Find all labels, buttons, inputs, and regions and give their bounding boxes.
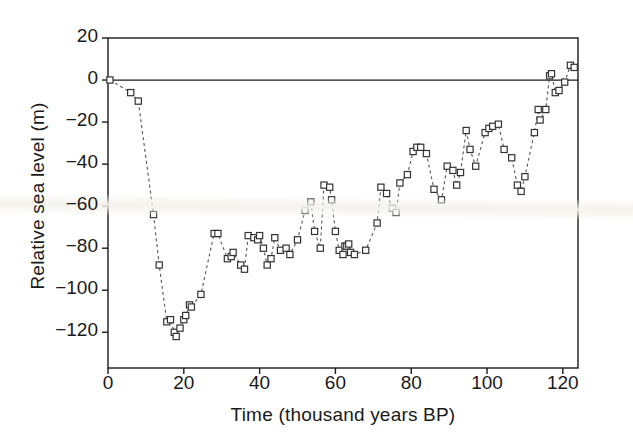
data-point-marker: [501, 146, 507, 152]
plot-frame-rect: [108, 38, 578, 368]
data-point-marker: [418, 144, 424, 150]
data-point-marker: [173, 333, 179, 339]
data-point-marker: [438, 197, 444, 203]
data-point-marker: [312, 228, 318, 234]
data-point-marker: [450, 167, 456, 173]
data-point-marker: [423, 151, 429, 157]
data-point-marker: [241, 266, 247, 272]
data-point-marker: [177, 325, 183, 331]
data-point-marker: [264, 262, 270, 268]
data-point-marker: [107, 77, 113, 83]
data-point-marker: [128, 90, 134, 96]
x-tick-label: 80: [401, 372, 422, 394]
data-point-marker: [198, 291, 204, 297]
data-point-marker: [363, 247, 369, 253]
data-point-marker: [215, 230, 221, 236]
data-point-marker: [346, 241, 352, 247]
data-point-marker: [473, 163, 479, 169]
data-point-marker: [188, 304, 194, 310]
data-point-marker: [167, 317, 173, 323]
sea-level-chart-figure: 200−20−40−60−80−100−120 020406080100120 …: [0, 0, 633, 438]
data-point-marker: [384, 190, 390, 196]
data-point-marker: [340, 251, 346, 257]
x-tick-label: 100: [471, 372, 503, 394]
data-point-marker: [509, 155, 515, 161]
data-point-marker: [156, 262, 162, 268]
x-tick-label: 0: [103, 372, 114, 394]
data-point-marker: [514, 182, 520, 188]
data-point-marker: [531, 130, 537, 136]
data-point-marker: [393, 209, 399, 215]
data-point-marker: [467, 146, 473, 152]
data-point-marker: [230, 249, 236, 255]
data-point-marker: [495, 121, 501, 127]
data-point-marker: [332, 228, 338, 234]
y-tick-label: 0: [87, 67, 98, 89]
y-tick-label: −20: [66, 109, 98, 131]
data-point-marker: [287, 251, 293, 257]
data-point-marker: [374, 220, 380, 226]
x-axis-title: Time (thousand years BP): [108, 404, 578, 426]
plot-frame: [108, 38, 578, 368]
data-point-marker: [294, 237, 300, 243]
series-polyline: [110, 65, 574, 336]
y-tick-label: −100: [55, 277, 98, 299]
y-tick-label: −80: [66, 235, 98, 257]
data-point-marker: [268, 256, 274, 262]
data-point-marker: [571, 64, 577, 70]
data-point-marker: [272, 235, 278, 241]
data-point-marker: [135, 98, 141, 104]
data-point-marker: [537, 117, 543, 123]
series-markers: [107, 62, 578, 339]
data-point-marker: [351, 251, 357, 257]
data-point-marker: [150, 212, 156, 218]
data-point-marker: [562, 79, 568, 85]
data-point-marker: [308, 199, 314, 205]
x-tick-label: 60: [325, 372, 346, 394]
data-point-marker: [548, 71, 554, 77]
x-tick-label: 40: [249, 372, 270, 394]
data-point-marker: [302, 207, 308, 213]
data-point-marker: [257, 233, 263, 239]
chart-plot-area: [0, 0, 633, 438]
data-point-marker: [329, 197, 335, 203]
x-tick-label: 120: [547, 372, 579, 394]
data-point-marker: [518, 188, 524, 194]
y-tick-label: −120: [55, 319, 98, 341]
x-tick-label: 20: [173, 372, 194, 394]
data-point-marker: [397, 180, 403, 186]
data-point-marker: [317, 245, 323, 251]
data-point-marker: [260, 245, 266, 251]
data-point-marker: [522, 174, 528, 180]
data-point-marker: [543, 106, 549, 112]
data-point-marker: [283, 245, 289, 251]
data-point-marker: [457, 169, 463, 175]
data-point-marker: [535, 106, 541, 112]
data-point-marker: [454, 182, 460, 188]
data-point-marker: [463, 127, 469, 133]
data-point-marker: [556, 87, 562, 93]
data-point-marker: [404, 172, 410, 178]
y-tick-label: −40: [66, 151, 98, 173]
data-point-marker: [431, 186, 437, 192]
data-point-marker: [183, 312, 189, 318]
series-dashed-line: [110, 65, 574, 336]
data-point-marker: [327, 184, 333, 190]
y-tick-label: 20: [77, 25, 98, 47]
y-tick-label: −60: [66, 193, 98, 215]
y-axis-title: Relative sea level (m): [27, 46, 49, 346]
data-point-marker: [378, 184, 384, 190]
